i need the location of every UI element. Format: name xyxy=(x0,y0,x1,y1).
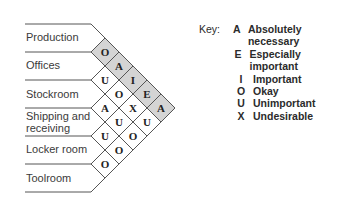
legend-row: O Okay xyxy=(199,85,345,97)
dept-label-shipping-line1: Shipping and xyxy=(26,110,90,122)
legend-desc: Absolutely necessary xyxy=(244,23,345,48)
dept-label-stockroom: Stockroom xyxy=(26,88,79,100)
relationship-code: O xyxy=(129,130,138,142)
relationship-code: E xyxy=(143,88,150,100)
relationship-code: I xyxy=(131,74,135,86)
legend-row: E Especially important xyxy=(199,48,345,73)
dept-label-shipping: Shipping and receiving xyxy=(26,110,90,134)
relationship-code: U xyxy=(101,74,109,86)
dept-label-locker-room: Locker room xyxy=(26,143,87,155)
relationship-cells: OUAUOAOUOIXOEUA xyxy=(91,38,175,178)
legend-row: Key: A Absolutely necessary xyxy=(199,23,345,48)
legend-title: Key: xyxy=(199,23,230,48)
legend-code: E xyxy=(231,48,246,73)
legend-desc: Unimportant xyxy=(249,97,315,109)
relationship-code: A xyxy=(101,102,109,114)
relationship-code: O xyxy=(115,144,124,156)
legend-code: X xyxy=(233,110,249,122)
legend-code: O xyxy=(233,85,249,97)
legend-code: I xyxy=(233,73,249,85)
dept-label-production: Production xyxy=(26,31,79,43)
relationship-code: X xyxy=(129,102,137,114)
legend-desc: Undesirable xyxy=(249,110,313,122)
legend-desc: Important xyxy=(249,73,301,85)
relationship-code: O xyxy=(115,88,124,100)
row-separators xyxy=(25,24,91,192)
relationship-code: U xyxy=(101,130,109,142)
relationship-code: A xyxy=(115,60,123,72)
relationship-code: O xyxy=(101,46,110,58)
legend-row: I Important xyxy=(199,73,345,85)
relationship-code: U xyxy=(143,116,151,128)
relationship-code: O xyxy=(101,158,110,170)
dept-label-shipping-line2: receiving xyxy=(26,122,90,134)
legend-desc: Especially important xyxy=(245,48,345,73)
legend-code: A xyxy=(230,23,244,48)
legend-row: U Unimportant xyxy=(199,97,345,109)
dept-label-toolroom: Toolroom xyxy=(26,172,71,184)
legend-desc: Okay xyxy=(249,85,279,97)
relationship-code: U xyxy=(115,116,123,128)
dept-label-offices: Offices xyxy=(26,59,60,71)
legend-code: U xyxy=(233,97,249,109)
relationship-code: A xyxy=(157,102,165,114)
legend-row: X Undesirable xyxy=(199,110,345,122)
legend: Key: A Absolutely necessary E Especially… xyxy=(199,23,345,122)
